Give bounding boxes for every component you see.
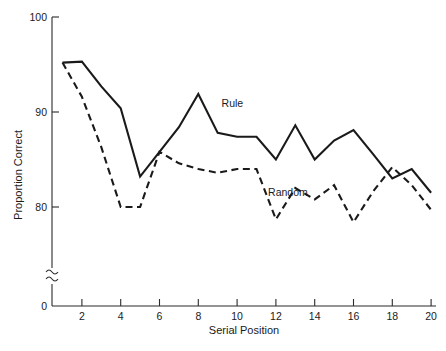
series-label-random: Random: [268, 186, 308, 198]
x-tick-label-2: 2: [79, 310, 85, 322]
x-tick-label-8: 8: [195, 310, 201, 322]
chart-container: 100 90 80 0 2468101214161820 Rule Random…: [0, 0, 446, 351]
x-tick-label-14: 14: [309, 310, 321, 322]
x-tick-label-6: 6: [157, 310, 163, 322]
x-tick-label-12: 12: [270, 310, 282, 322]
x-tick-label-18: 18: [386, 310, 398, 322]
series-line-random: [63, 63, 432, 223]
y-tick-label-100: 100: [29, 11, 47, 23]
y-axis-break-upper-icon: [46, 270, 58, 274]
x-tick-label-10: 10: [231, 310, 243, 322]
x-tick-label-20: 20: [425, 310, 437, 322]
y-tick-label-0: 0: [41, 300, 47, 312]
y-tick-label-80: 80: [35, 201, 47, 213]
y-axis-title: Proportion Correct: [12, 130, 24, 220]
series-label-rule: Rule: [222, 97, 244, 109]
x-axis-title: Serial Position: [209, 324, 279, 336]
line-chart: 100 90 80 0 2468101214161820 Rule Random…: [0, 0, 446, 351]
y-axis-break-lower-icon: [46, 277, 58, 281]
x-tick-group: 2468101214161820: [79, 299, 437, 322]
x-tick-label-4: 4: [118, 310, 124, 322]
x-tick-label-16: 16: [348, 310, 360, 322]
series-line-rule: [63, 62, 432, 193]
y-tick-label-90: 90: [35, 106, 47, 118]
